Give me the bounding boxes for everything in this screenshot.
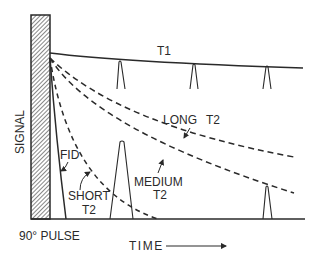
relaxation-diagram: T1 LONG T2 MEDIUM T2 SHORT T2 FID SIGNAL… (0, 0, 319, 263)
long-t2-curve (50, 58, 294, 157)
t1-echo-2 (190, 64, 198, 89)
medium-t2-echo-2 (263, 186, 272, 219)
long-t2-label-line1: LONG (163, 113, 197, 127)
fid-label: FID (60, 148, 80, 162)
t1-echo-1 (117, 61, 125, 89)
short-t2-pointer (80, 172, 90, 190)
long-t2-pointer (184, 128, 190, 138)
medium-t2-label-line1: MEDIUM (134, 175, 183, 189)
pulse-90-block (31, 15, 50, 219)
x-axis-label: TIME (129, 239, 164, 253)
y-axis-label: SIGNAL (13, 110, 27, 154)
t1-echo-3 (263, 66, 271, 89)
pulse-label: 90° PULSE (19, 229, 80, 243)
t1-label: T1 (157, 44, 171, 58)
medium-t2-label-line2: T2 (153, 188, 167, 202)
short-t2-label-line2: T2 (82, 203, 96, 217)
short-t2-label-line1: SHORT (68, 189, 110, 203)
medium-t2-echo-1 (110, 141, 133, 219)
medium-t2-pointer (158, 160, 163, 173)
fid-pointer (61, 162, 68, 171)
t1-curve (50, 53, 303, 68)
long-t2-label-line2: T2 (206, 113, 220, 127)
fid-curve (50, 58, 66, 219)
